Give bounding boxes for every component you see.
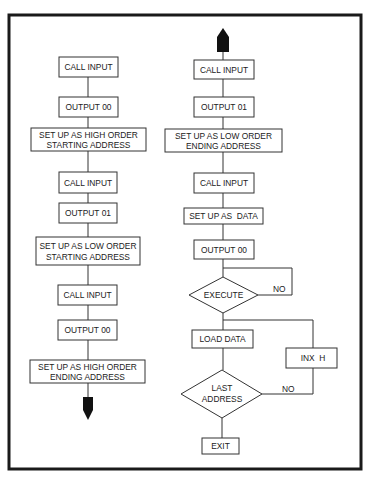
svg-text:ENDING ADDRESS: ENDING ADDRESS (186, 141, 261, 151)
svg-text:STARTING ADDRESS: STARTING ADDRESS (47, 140, 131, 150)
step-r8: INX H (286, 348, 337, 368)
step-l4: CALL INPUT (59, 172, 117, 193)
step-r6: OUTPUT 00 (194, 240, 254, 259)
step-l3: SET UP AS HIGH ORDER STARTING ADDRESS (31, 128, 146, 151)
step-r7: LOAD DATA (192, 330, 253, 348)
svg-text:EXECUTE: EXECUTE (204, 290, 244, 300)
step-l5: OUTPUT 01 (59, 203, 117, 223)
arrow-up-icon (217, 28, 229, 52)
svg-text:EXIT: EXIT (211, 441, 230, 451)
svg-text:CALL INPUT: CALL INPUT (64, 178, 112, 188)
svg-text:SET UP AS DATA: SET UP AS DATA (189, 211, 258, 221)
svg-text:SET UP AS LOW ORDER: SET UP AS LOW ORDER (40, 241, 137, 251)
svg-text:OUTPUT 00: OUTPUT 00 (66, 102, 112, 112)
step-r5: SET UP AS DATA (184, 208, 263, 224)
svg-text:ENDING ADDRESS: ENDING ADDRESS (50, 372, 125, 382)
step-r9: EXIT (202, 438, 239, 454)
no-label: NO (273, 284, 286, 294)
svg-text:OUTPUT 01: OUTPUT 01 (65, 208, 111, 218)
step-l9: SET UP AS HIGH ORDER ENDING ADDRESS (30, 360, 145, 383)
flowchart: CALL INPUT OUTPUT 00 SET UP AS HIGH ORDE… (0, 0, 371, 479)
step-l2: OUTPUT 00 (59, 97, 118, 117)
svg-text:OUTPUT 00: OUTPUT 00 (201, 245, 247, 255)
svg-text:CALL INPUT: CALL INPUT (200, 178, 248, 188)
arrow-down-icon (83, 397, 93, 420)
svg-text:INX H: INX H (301, 353, 326, 363)
step-l8: OUTPUT 00 (58, 320, 117, 340)
step-l1: CALL INPUT (59, 57, 118, 77)
svg-text:CALL INPUT: CALL INPUT (64, 62, 112, 72)
svg-text:ADDRESS: ADDRESS (202, 394, 243, 404)
svg-text:CALL INPUT: CALL INPUT (63, 290, 111, 300)
svg-text:LOAD DATA: LOAD DATA (199, 334, 246, 344)
step-r4: CALL INPUT (194, 173, 254, 193)
step-r3: SET UP AS LOW ORDER ENDING ADDRESS (165, 129, 282, 152)
svg-text:OUTPUT 01: OUTPUT 01 (201, 102, 247, 112)
no-label: NO (282, 384, 295, 394)
svg-text:STARTING ADDRESS: STARTING ADDRESS (46, 252, 130, 262)
svg-text:OUTPUT 00: OUTPUT 00 (65, 325, 111, 335)
svg-text:SET UP AS LOW ORDER: SET UP AS LOW ORDER (175, 131, 272, 141)
step-r1: CALL INPUT (194, 60, 254, 79)
step-r2: OUTPUT 01 (194, 97, 254, 117)
svg-text:LAST: LAST (212, 383, 233, 393)
svg-text:SET UP AS HIGH ORDER: SET UP AS HIGH ORDER (39, 130, 138, 140)
svg-text:CALL INPUT: CALL INPUT (200, 65, 248, 75)
svg-text:SET UP AS HIGH ORDER: SET UP AS HIGH ORDER (38, 362, 137, 372)
step-l7: CALL INPUT (58, 285, 117, 305)
step-l6: SET UP AS LOW ORDER STARTING ADDRESS (36, 237, 140, 265)
